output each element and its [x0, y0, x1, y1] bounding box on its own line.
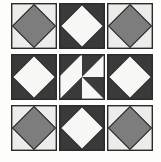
quilt-block-middle-right	[107, 54, 153, 100]
quilt-block-top-right	[107, 3, 153, 49]
quilt-block-top-left	[11, 3, 57, 49]
quilt-block-top-center	[59, 3, 105, 49]
quilt-block-bottom-right	[107, 105, 153, 151]
quilt-block-middle-left	[11, 54, 57, 100]
quilt-block-center	[59, 54, 105, 100]
quilt-grid	[11, 3, 157, 153]
quilt-figure	[0, 0, 161, 162]
quilt-block-bottom-center	[59, 105, 105, 151]
quilt-block-bottom-left	[11, 105, 57, 151]
